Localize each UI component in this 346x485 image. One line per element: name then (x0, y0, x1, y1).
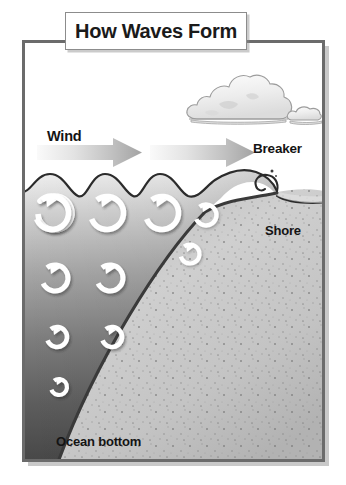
breaker-label: Breaker (253, 141, 302, 156)
title-plate: How Waves Form (65, 12, 247, 50)
diagram-canvas: How Waves Form Wind Breaker Shore Ocean … (0, 0, 346, 485)
shore-label: Shore (265, 223, 301, 238)
wind-label: Wind (47, 128, 82, 144)
waves-diagram-svg (0, 0, 346, 485)
page-title: How Waves Form (75, 20, 237, 43)
ocean-bottom-label: Ocean bottom (56, 434, 141, 449)
